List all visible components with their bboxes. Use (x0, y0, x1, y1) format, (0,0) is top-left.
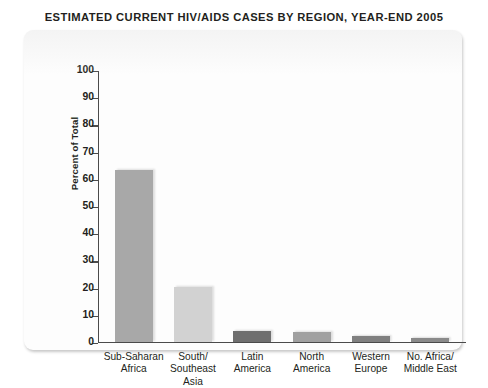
plot-area: 0102030405060708090100 Sub-SaharanAfrica… (98, 71, 466, 343)
y-tick-label: 50 (82, 200, 94, 211)
bar-group: LatinAmerica (221, 331, 283, 342)
y-tick-label: 40 (82, 227, 94, 238)
y-axis-line (98, 71, 99, 343)
bar-group: Sub-SaharanAfrica (103, 170, 165, 341)
y-tick-label: 80 (82, 118, 94, 129)
chart-title: ESTIMATED CURRENT HIV/AIDS CASES BY REGI… (0, 11, 488, 23)
chart-card: Percent of Total 0102030405060708090100 … (24, 30, 462, 350)
y-tick-label: 90 (82, 91, 94, 102)
y-axis-title: Percent of Total (69, 94, 80, 214)
bar (411, 338, 449, 342)
y-tick-label: 100 (77, 64, 94, 75)
x-axis-category-label: No. Africa/Middle East (386, 351, 474, 376)
y-tick-label: 30 (82, 254, 94, 265)
y-tick-label: 70 (82, 146, 94, 157)
bar (115, 170, 153, 341)
bar-group: No. Africa/Middle East (399, 338, 461, 342)
bar-group: South/SoutheastAsia (162, 287, 224, 341)
bar-group: WesternEurope (340, 336, 402, 341)
y-tick-label: 0 (88, 336, 94, 347)
bar (293, 332, 331, 342)
bar (352, 336, 390, 341)
y-tick-label: 10 (82, 309, 94, 320)
y-tick-label: 60 (82, 173, 94, 184)
x-axis-line (98, 342, 466, 343)
y-tick-label: 20 (82, 282, 94, 293)
bar (233, 331, 271, 342)
bar (174, 287, 212, 341)
bar-group: NorthAmerica (281, 332, 343, 342)
